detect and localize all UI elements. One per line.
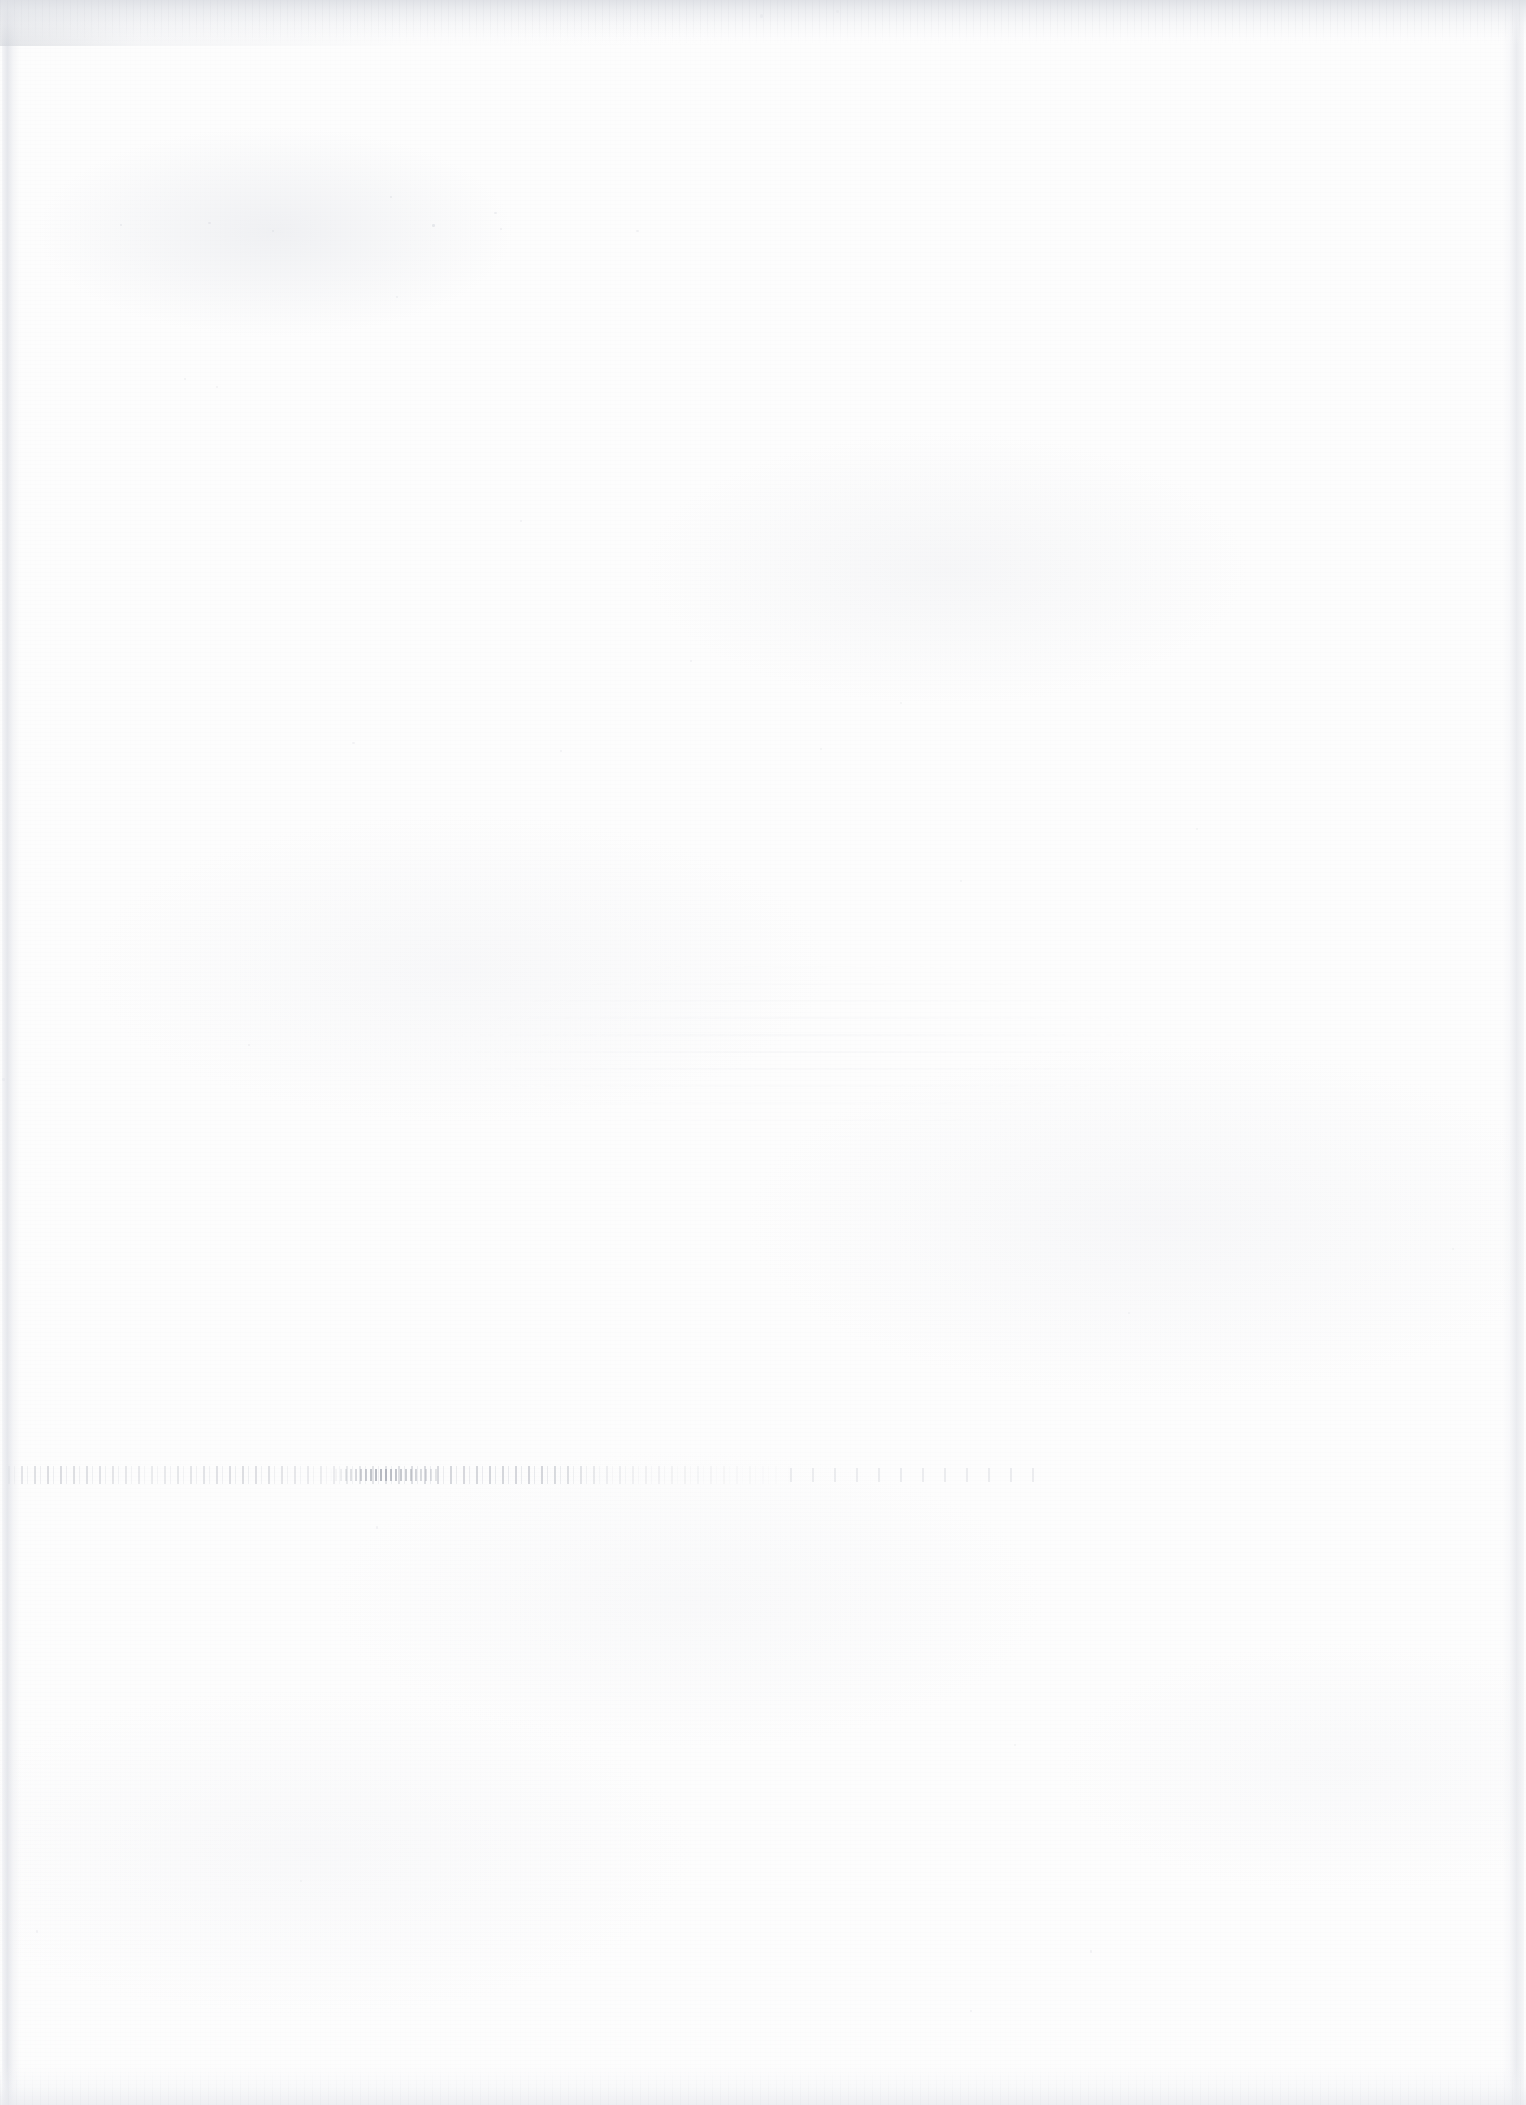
- horizontal-speck-line-tail: [790, 1468, 1050, 1482]
- dust-speck: [1452, 1248, 1454, 1250]
- dust-speck: [272, 230, 274, 232]
- dust-speck: [836, 10, 839, 13]
- center-showthrough-ghost: [430, 958, 1170, 1138]
- dust-speck: [636, 230, 639, 232]
- dust-speck: [970, 2010, 972, 2012]
- horizontal-speck-line-dense-cluster: [330, 1469, 440, 1481]
- dust-speck: [2, 1078, 5, 1081]
- horizontal-speck-line: [8, 1466, 798, 1484]
- dust-speck: [1128, 1312, 1130, 1314]
- bottom-scanner-edge-streaks: [0, 2069, 1526, 2105]
- top-scanner-edge-band: [0, 0, 1526, 46]
- dust-speck: [396, 296, 398, 298]
- paper-grain-texture: [0, 0, 1526, 2105]
- right-page-edge-shadow: [1502, 0, 1524, 2105]
- dust-speck: [1196, 828, 1198, 830]
- dust-speck: [432, 224, 435, 227]
- dust-speck: [208, 222, 211, 224]
- dust-speck: [500, 228, 502, 230]
- dust-speck: [248, 1044, 250, 1046]
- dust-speck: [520, 520, 522, 522]
- dust-speck: [690, 660, 692, 662]
- dust-speck: [760, 14, 763, 18]
- dust-speck: [560, 750, 562, 752]
- scanned-page: [0, 0, 1526, 2105]
- dust-speck: [36, 1930, 38, 1933]
- dust-speck: [494, 212, 497, 214]
- dust-speck: [300, 1880, 302, 1882]
- dust-speck: [352, 742, 355, 744]
- dust-speck: [820, 748, 822, 750]
- dust-speck: [1014, 1744, 1016, 1746]
- top-scanner-edge-streaks: [0, 0, 1526, 44]
- dust-speck: [900, 702, 902, 704]
- dust-speck: [184, 378, 186, 380]
- left-page-edge-shadow: [2, 0, 20, 2105]
- dust-speck: [1090, 1950, 1092, 1953]
- dust-speck: [216, 386, 218, 388]
- dust-speck: [390, 196, 392, 198]
- dust-speck: [120, 224, 122, 226]
- dust-speck: [960, 880, 962, 882]
- bottom-scanner-edge-band: [0, 2065, 1526, 2105]
- dust-speck: [376, 1526, 378, 1529]
